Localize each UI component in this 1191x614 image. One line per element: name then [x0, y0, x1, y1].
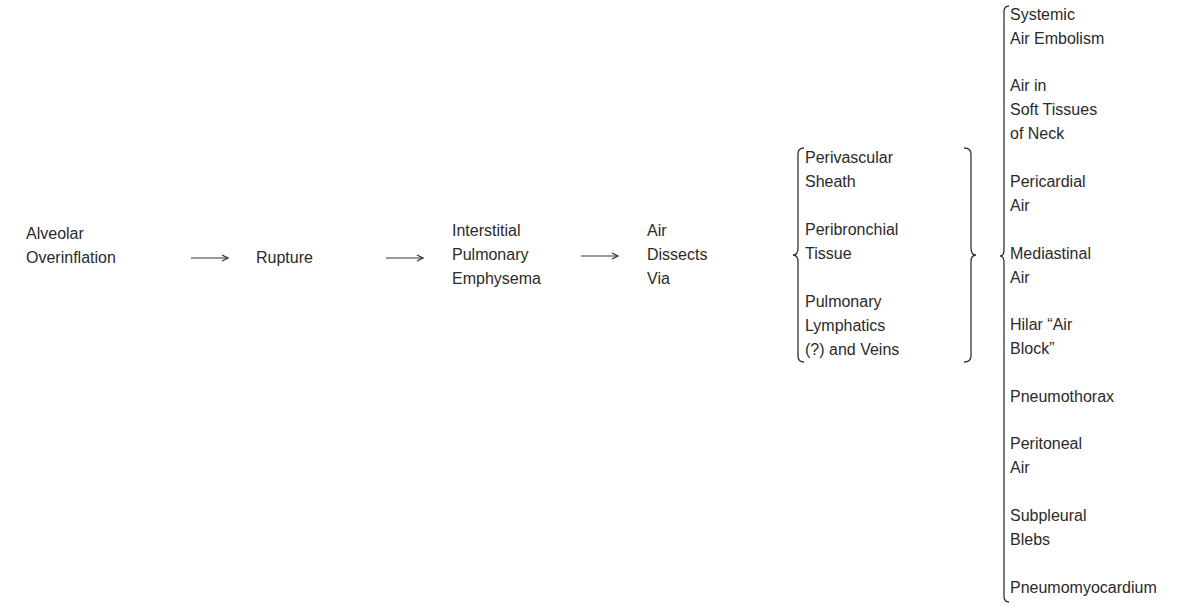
arrow-icon: [386, 253, 424, 263]
outcome-systemic-air-embolism: Systemic Air Embolism: [1010, 3, 1104, 51]
node-air-dissects-via: Air Dissects Via: [647, 219, 707, 291]
outcome-subpleural-blebs: Subpleural Blebs: [1010, 504, 1087, 552]
node-line: Interstitial: [452, 219, 541, 243]
node-line: Dissects: [647, 243, 707, 267]
pathway-pulmonary-lymphatics-veins: Pulmonary Lymphatics (?) and Veins: [805, 290, 899, 362]
right-brace-pathways: [962, 146, 978, 364]
node-line: Air: [647, 219, 707, 243]
outcome-hilar-air-block: Hilar “Air Block”: [1010, 313, 1072, 361]
node-interstitial-pulmonary-emphysema: Interstitial Pulmonary Emphysema: [452, 219, 541, 291]
node-line: Alveolar: [26, 222, 116, 246]
node-line: Overinflation: [26, 246, 116, 270]
outcome-air-in-soft-tissues-of-neck: Air in Soft Tissues of Neck: [1010, 74, 1097, 146]
node-alveolar-overinflation: Alveolar Overinflation: [26, 222, 116, 270]
outcome-pneumothorax: Pneumothorax: [1010, 385, 1114, 409]
node-line: Via: [647, 267, 707, 291]
arrow-icon: [191, 253, 229, 263]
outcome-pneumomyocardium: Pneumomyocardium: [1010, 576, 1157, 600]
node-line: Rupture: [256, 246, 313, 270]
node-line: Emphysema: [452, 267, 541, 291]
pathway-perivascular-sheath: Perivascular Sheath: [805, 146, 893, 194]
outcome-pericardial-air: Pericardial Air: [1010, 170, 1086, 218]
arrow-icon: [581, 251, 619, 261]
outcome-mediastinal-air: Mediastinal Air: [1010, 242, 1091, 290]
outcome-peritoneal-air: Peritoneal Air: [1010, 432, 1082, 480]
left-brace-pathways: [792, 146, 806, 364]
pathway-peribronchial-tissue: Peribronchial Tissue: [805, 218, 898, 266]
node-rupture: Rupture: [256, 246, 313, 270]
node-line: Pulmonary: [452, 243, 541, 267]
